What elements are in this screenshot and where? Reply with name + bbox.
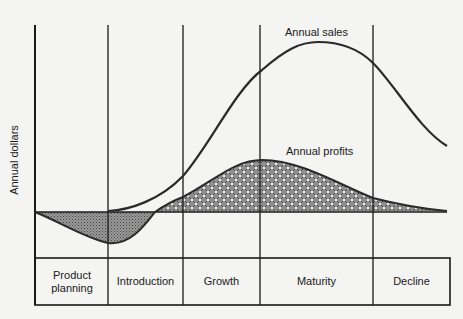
stage-decline: Decline <box>373 258 450 305</box>
stage-label: Growth <box>204 275 239 288</box>
sales-label: Annual sales <box>285 26 348 38</box>
stage-product-planning: Product planning <box>36 258 108 305</box>
stage-growth: Growth <box>183 258 260 305</box>
stage-label: Product planning <box>42 269 102 295</box>
y-axis-label: Annual dollars <box>8 120 20 200</box>
stage-label: Introduction <box>117 275 174 288</box>
stage-introduction: Introduction <box>108 258 183 305</box>
stage-maturity: Maturity <box>260 258 373 305</box>
stage-label: Maturity <box>297 275 336 288</box>
stage-label: Decline <box>393 275 430 288</box>
profits-label: Annual profits <box>286 145 353 157</box>
